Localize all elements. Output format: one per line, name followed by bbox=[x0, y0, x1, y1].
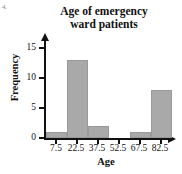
x-axis-line bbox=[44, 138, 168, 140]
y-tick-15 bbox=[39, 47, 45, 48]
y-axis-arrow-icon bbox=[41, 33, 49, 41]
y-tick-5 bbox=[39, 107, 45, 108]
x-tick-label-6: 82.5 bbox=[146, 143, 174, 153]
bar-22.5 bbox=[67, 60, 88, 138]
y-axis-line bbox=[44, 40, 46, 138]
y-tick-label-0: 0 bbox=[0, 132, 36, 142]
plot-area: 0 5 10 15 7.5 22.5 37.5 52.5 67.5 82.5 F… bbox=[0, 0, 182, 174]
bar-37.5 bbox=[88, 126, 109, 138]
bar-7.5 bbox=[46, 132, 67, 138]
y-axis-label: Frequency bbox=[9, 42, 20, 114]
y-tick-10 bbox=[39, 77, 45, 78]
x-axis-label: Age bbox=[44, 156, 168, 167]
bar-67.5 bbox=[130, 132, 151, 138]
chart-figure: 4. Age of emergency ward patients 0 5 10… bbox=[0, 0, 182, 174]
y-tick-0 bbox=[39, 137, 45, 138]
bar-82.5 bbox=[151, 90, 172, 138]
